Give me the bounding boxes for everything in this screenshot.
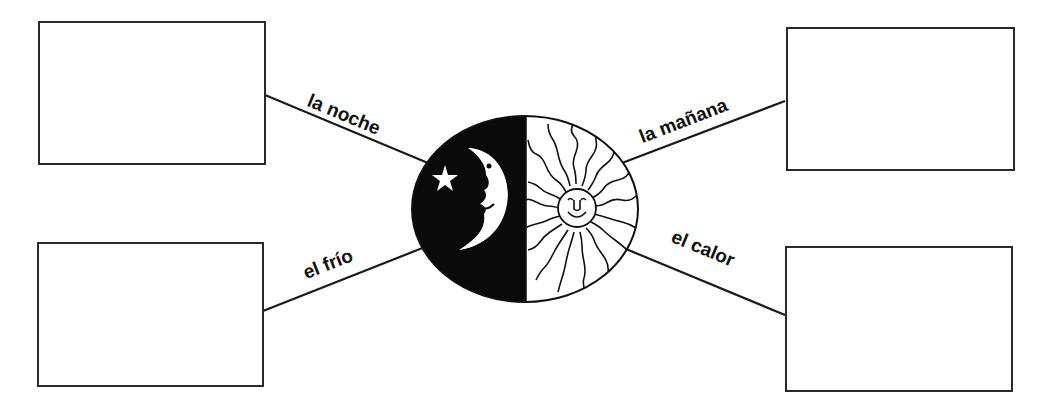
sun-moon-icon xyxy=(405,110,650,310)
sun-face-icon xyxy=(558,189,596,227)
answer-box-bottom-right[interactable] xyxy=(785,246,1013,392)
answer-box-top-left[interactable] xyxy=(38,21,266,165)
answer-box-bottom-left[interactable] xyxy=(37,242,264,387)
answer-box-top-right[interactable] xyxy=(786,27,1015,171)
night-half xyxy=(405,110,526,310)
